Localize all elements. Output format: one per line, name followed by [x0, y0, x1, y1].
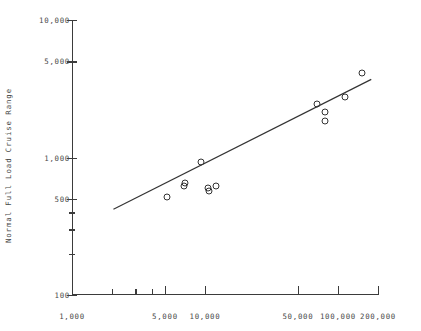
data-point	[164, 193, 171, 200]
data-point	[342, 94, 349, 101]
data-point	[182, 180, 189, 187]
chart-figure: Normal Full Load Cruise Range 1005001,00…	[0, 0, 421, 331]
data-point	[313, 100, 320, 107]
data-point	[198, 158, 205, 165]
x-tick	[378, 286, 379, 295]
x-tick-label: 10,000	[190, 312, 221, 321]
x-tick-label: 1,000	[59, 312, 85, 321]
data-point	[359, 70, 366, 77]
trend-line	[72, 20, 378, 295]
data-point	[322, 108, 329, 115]
x-tick-label: 200,000	[360, 312, 396, 321]
y-tick-label: 100	[55, 291, 70, 300]
y-tick-label: 1,000	[44, 153, 70, 162]
x-tick-label: 100,000	[320, 312, 356, 321]
y-tick-label: 10,000	[39, 16, 70, 25]
y-axis-title: Normal Full Load Cruise Range	[0, 0, 16, 331]
data-point	[322, 117, 329, 124]
data-point	[205, 188, 212, 195]
data-point	[212, 183, 219, 190]
plot-area: 1005001,0005,00010,000 1,0005,00010,0005…	[72, 20, 378, 295]
x-tick-label: 5,000	[152, 312, 178, 321]
x-tick-label: 50,000	[282, 312, 313, 321]
y-tick-label: 500	[55, 194, 70, 203]
y-tick-label: 5,000	[44, 57, 70, 66]
